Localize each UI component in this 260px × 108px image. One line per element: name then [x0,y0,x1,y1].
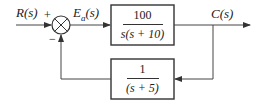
forward-denominator: s(s + 10) [121,25,164,41]
error-label-main: E [73,5,81,20]
feedback-denominator: (s + 5) [126,79,159,95]
feedback-return-line [61,35,111,79]
feedback-numerator: 1 [140,62,146,78]
plus-sign: + [44,9,51,21]
error-label-suffix: (s) [85,5,99,20]
forward-numerator: 100 [134,8,152,24]
minus-sign: − [49,33,56,45]
error-label: Ea(s) [73,6,99,23]
forward-transfer-function: 100 s(s + 10) [111,8,174,41]
input-label: R(s) [16,6,38,19]
output-label: C(s) [211,7,233,20]
feedback-transfer-function: 1 (s + 5) [111,62,174,95]
feedback-takeoff-line [175,25,213,79]
